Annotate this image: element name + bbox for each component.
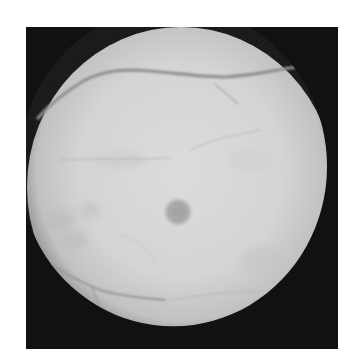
fundus-photo (0, 0, 363, 364)
